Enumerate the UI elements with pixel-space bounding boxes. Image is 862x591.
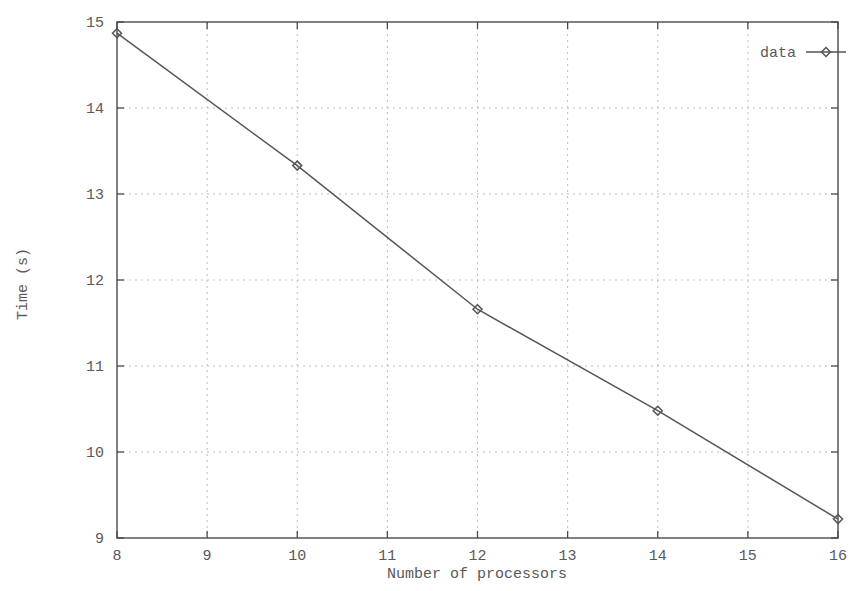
x-tick-label: 15 bbox=[739, 548, 757, 565]
x-tick-label: 16 bbox=[829, 548, 847, 565]
x-axis-title: Number of processors bbox=[387, 566, 567, 583]
y-tick-label: 14 bbox=[86, 101, 104, 118]
chart-container: 8910111213141516 9101112131415 data Numb… bbox=[0, 0, 862, 591]
x-tick-label: 12 bbox=[468, 548, 486, 565]
x-tick-label: 11 bbox=[378, 548, 396, 565]
x-tick-label: 13 bbox=[559, 548, 577, 565]
y-tick-label: 9 bbox=[95, 531, 104, 548]
x-tick-label: 8 bbox=[112, 548, 121, 565]
x-tick-label: 10 bbox=[288, 548, 306, 565]
y-tick-label: 10 bbox=[86, 445, 104, 462]
y-tick-label: 12 bbox=[86, 273, 104, 290]
x-tick-label: 9 bbox=[203, 548, 212, 565]
y-tick-label: 11 bbox=[86, 359, 104, 376]
y-axis-title: Time (s) bbox=[15, 248, 32, 320]
y-tick-label: 13 bbox=[86, 187, 104, 204]
legend-label: data bbox=[760, 45, 796, 62]
y-tick-label: 15 bbox=[86, 15, 104, 32]
chart-background bbox=[0, 0, 862, 591]
line-chart: 8910111213141516 9101112131415 data Numb… bbox=[0, 0, 862, 591]
x-tick-label: 14 bbox=[649, 548, 667, 565]
